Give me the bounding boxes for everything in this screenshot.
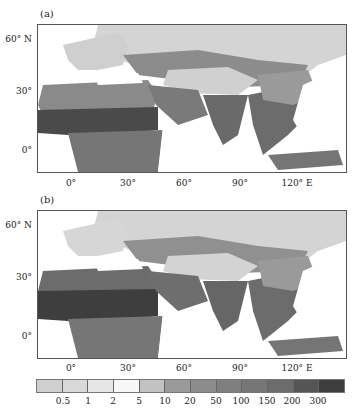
colorbar-segment — [268, 380, 294, 392]
map-a-heatmap — [38, 25, 346, 172]
colorbar — [36, 379, 345, 393]
panel-b-label: (b) — [40, 194, 54, 205]
ytick-b-60n: 60° N — [2, 220, 32, 230]
colorbar-segment — [242, 380, 268, 392]
colorbar-segment — [37, 380, 63, 392]
colorbar-segment — [165, 380, 191, 392]
panel-a-label: (a) — [40, 8, 54, 19]
colorbar-segment — [63, 380, 89, 392]
xtick-b-0: 0° — [51, 363, 91, 373]
map-panel-a — [37, 24, 347, 173]
colorbar-label: 300 — [303, 396, 333, 406]
ytick-a-0: 0° — [2, 145, 32, 155]
xtick-b-90: 90° — [220, 363, 260, 373]
ytick-b-30: 30° — [2, 272, 32, 282]
xtick-b-120e: 120° E — [277, 363, 317, 373]
xtick-a-0: 0° — [51, 178, 91, 188]
colorbar-segment — [88, 380, 114, 392]
colorbar-segment — [140, 380, 166, 392]
xtick-b-60: 60° — [164, 363, 204, 373]
map-panel-b — [37, 210, 347, 359]
xtick-a-120e: 120° E — [277, 178, 317, 188]
map-b-heatmap — [38, 211, 346, 358]
colorbar-segment — [319, 380, 344, 392]
xtick-a-90: 90° — [220, 178, 260, 188]
ytick-a-60n: 60° N — [2, 34, 32, 44]
colorbar-segment — [294, 380, 320, 392]
colorbar-segment — [191, 380, 217, 392]
colorbar-segment — [114, 380, 140, 392]
ytick-a-30: 30° — [2, 86, 32, 96]
ytick-b-0: 0° — [2, 331, 32, 341]
xtick-a-30: 30° — [108, 178, 148, 188]
xtick-a-60: 60° — [164, 178, 204, 188]
xtick-b-30: 30° — [108, 363, 148, 373]
colorbar-segment — [217, 380, 243, 392]
